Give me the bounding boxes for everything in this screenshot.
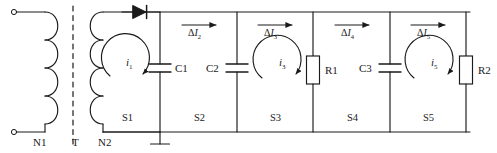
resistor-r2-label: R2 bbox=[478, 64, 491, 76]
section-s2-label: S2 bbox=[194, 112, 205, 123]
section-s3-label: S3 bbox=[270, 112, 281, 123]
diode-icon bbox=[133, 5, 147, 18]
delta-current-i2-label: ΔI2 bbox=[188, 27, 201, 40]
delta-current-i5-subscript: 5 bbox=[427, 33, 430, 40]
ground-icon bbox=[151, 132, 170, 144]
section-s5-label: S5 bbox=[423, 112, 434, 123]
circuit-schematic-svg bbox=[0, 0, 497, 153]
branch-r1 bbox=[307, 12, 320, 132]
delta-current-i4-subscript: 4 bbox=[351, 33, 354, 40]
loop-current-i1-subscript: 1 bbox=[129, 63, 133, 71]
secondary-winding-label: N2 bbox=[98, 136, 111, 148]
primary-winding-label: N1 bbox=[33, 136, 46, 148]
capacitor-c1-label: C1 bbox=[175, 62, 188, 74]
delta-current-i5-label: ΔI5 bbox=[417, 27, 430, 40]
delta-current-i3-label: ΔI3 bbox=[264, 27, 277, 40]
loop-current-i3-label: i3 bbox=[279, 56, 286, 71]
delta-current-i3-subscript: 3 bbox=[274, 33, 277, 40]
transformer-core-label: T bbox=[72, 136, 79, 148]
circuit-diagram: N1 T N2 C1 C2 R1 C3 R2 S1 S2 S3 S4 S5 i1… bbox=[0, 0, 497, 153]
branch-c1 bbox=[149, 12, 171, 132]
branch-c3 bbox=[379, 12, 401, 132]
section-s4-label: S4 bbox=[347, 112, 358, 123]
delta-current-i4-label: ΔI4 bbox=[341, 27, 354, 40]
loop-current-i5-subscript: 5 bbox=[434, 63, 438, 71]
branch-c2 bbox=[226, 12, 248, 132]
capacitor-c2-label: C2 bbox=[206, 62, 219, 74]
section-s1-label: S1 bbox=[122, 112, 133, 123]
loop-current-i1-label: i1 bbox=[126, 56, 133, 71]
branch-r2 bbox=[460, 12, 473, 132]
loop-current-i3-subscript: 3 bbox=[282, 63, 286, 71]
loop-current-i5-label: i5 bbox=[431, 56, 438, 71]
resistor-r1-label: R1 bbox=[325, 64, 338, 76]
loop-current-i3-arc bbox=[253, 35, 301, 78]
delta-current-i2-subscript: 2 bbox=[198, 33, 201, 40]
primary-winding bbox=[11, 9, 57, 134]
capacitor-c3-label: C3 bbox=[359, 62, 372, 74]
loop-current-i5-arc bbox=[405, 35, 453, 78]
